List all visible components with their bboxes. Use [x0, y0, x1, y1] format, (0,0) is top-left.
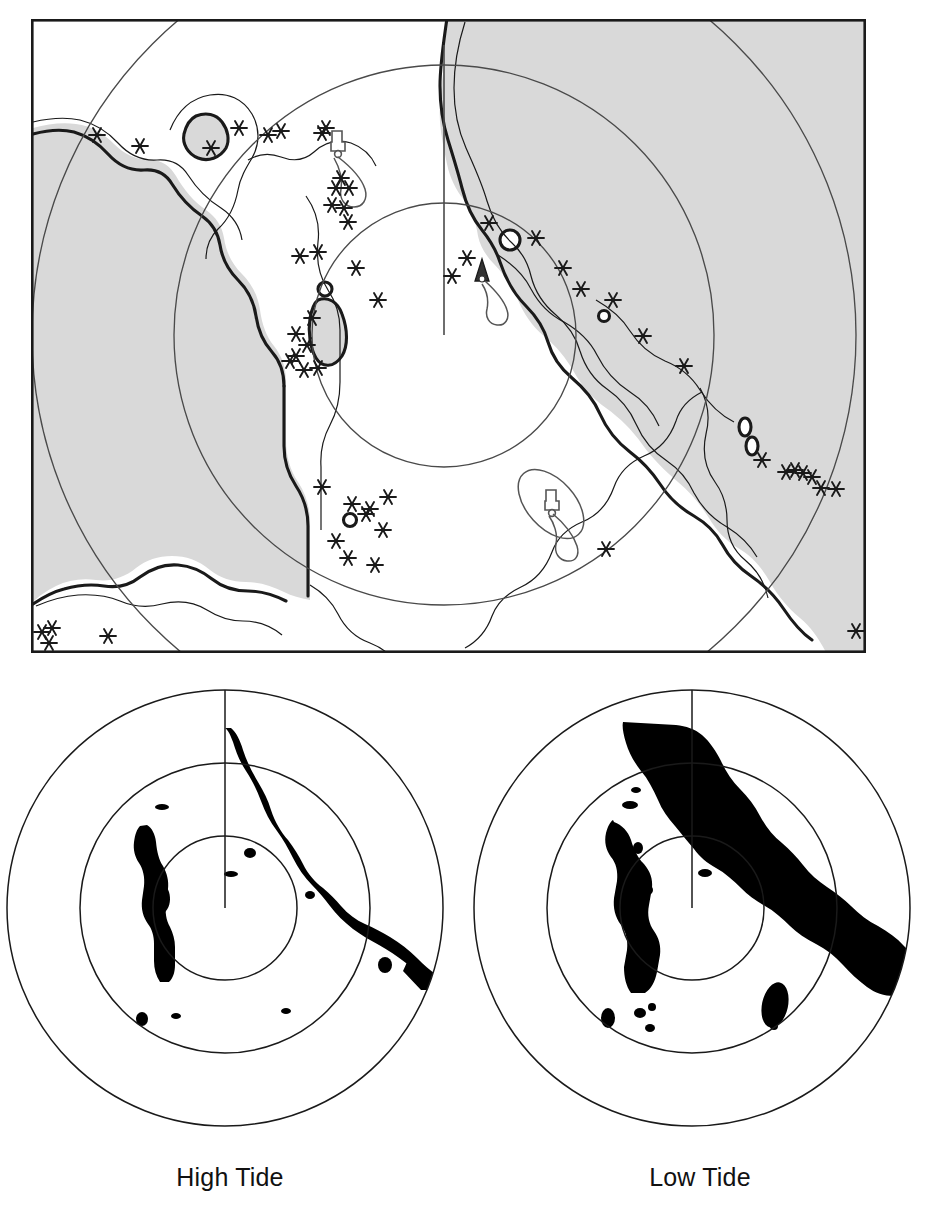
- figure-canvas: [0, 0, 926, 1215]
- islet-east-small: [599, 311, 610, 322]
- figure-root: High Tide Low Tide: [0, 0, 926, 1215]
- high-tide-label: High Tide: [120, 1163, 340, 1192]
- islet-far-east-a: [739, 418, 751, 436]
- islet-far-east-b: [746, 437, 758, 455]
- islet-center: [344, 514, 357, 527]
- low-tide-label: Low Tide: [590, 1163, 810, 1192]
